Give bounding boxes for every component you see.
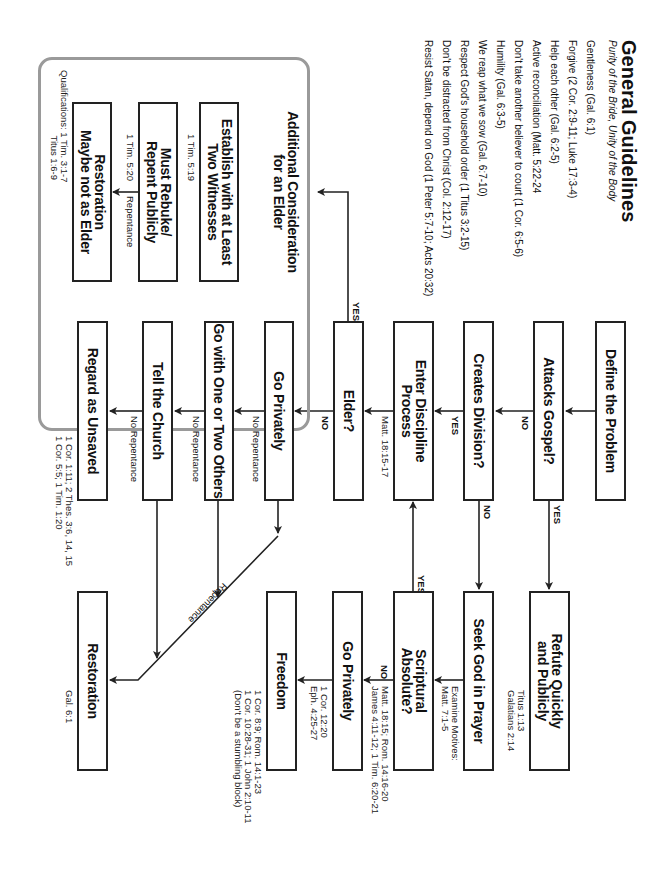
refute-line2: and Publicly <box>536 591 550 771</box>
restoration-label: Restoration <box>86 591 100 771</box>
seek-god-label: Seek God in Prayer <box>472 591 486 771</box>
restoration-maybe-line2: Maybe not as Elder <box>79 102 93 282</box>
establish-line2: Two Witnesses <box>206 102 220 282</box>
refute-ref: Titus 1:13 Galatians 2:14 <box>506 690 526 751</box>
freedom-ref: 1 Cor. 8:9; Rom. 14:1-23 1 Cor. 10:28-31… <box>233 690 263 823</box>
attacks-gospel-label: Attacks Gospel? <box>542 321 556 501</box>
rebuke-ref: 1 Tim. 5:20 <box>125 134 135 181</box>
guideline-item: Don't take another believer to court (1 … <box>512 40 524 296</box>
guidelines-title: General Guidelines <box>618 40 640 296</box>
qualifications-ref: Qualifications: 1 Tim. 3:1-7 Titus 1:6-9 <box>49 70 69 180</box>
elder-question-label: Elder? <box>342 321 356 501</box>
scriptural-absolute-label: Scriptural Absolute? <box>400 591 428 771</box>
freedom-label: Freedom <box>275 591 289 771</box>
guideline-item: Don't be distracted from Christ (Col. 2:… <box>440 40 452 296</box>
establish-witnesses-label: Establish with at Least Two Witnesses <box>206 102 234 282</box>
scriptural-ref-line2: James 4:11-12; 1 Tim. 6:20-21 <box>370 686 380 814</box>
go-privately-2-ref-line1: 1 Cor. 12:20 <box>319 686 329 740</box>
guideline-item: Gentleness (Gal. 6:1) <box>584 40 596 296</box>
establish-line1: Establish with at Least <box>220 102 234 282</box>
must-rebuke-label: Must Rebuke/ Repent Publicly <box>145 102 173 282</box>
guideline-item: Help each other (Gal. 6:2-5) <box>548 40 560 296</box>
go-privately-2-ref-line2: Eph. 4:25-27 <box>309 686 319 740</box>
refute-label: Refute Quickly and Publicly <box>536 591 564 771</box>
guideline-item: We reap what we sow (Gal. 6:7-10) <box>476 40 488 296</box>
enter-ref: Matt. 18:15-17 <box>380 416 390 477</box>
restoration-ref: Gal. 6:1 <box>64 690 74 723</box>
guideline-item: Respect God's household order (1 Titus 3… <box>458 40 470 296</box>
regard-ref-line1: 1 Cor. 1:11; 2 Thes. 3:6, 14, 15 <box>64 436 74 566</box>
enter-discipline-label: Enter Discipline Process <box>400 321 428 501</box>
qualifications-line2: Titus 1:6-9 <box>49 70 59 180</box>
restoration-maybe-label: Restoration Maybe not as Elder <box>79 102 107 282</box>
restoration-maybe-line1: Restoration <box>93 102 107 282</box>
seek-ref-line2: Matt. 7:1-5 <box>440 686 450 761</box>
enter-line1: Enter Discipline <box>414 321 428 501</box>
creates-division-label: Creates Division? <box>472 321 486 501</box>
qualifications-line1: Qualifications: 1 Tim. 3:1-7 <box>59 70 69 180</box>
scriptural-ref-line1: Matt. 18:15; Rom. 14:16-20 <box>380 686 390 814</box>
go-with-others-label: Go with One or Two Others <box>212 321 226 501</box>
guideline-item: Active reconciliation (Matt. 5:22-24 <box>530 40 542 296</box>
regard-ref: 1 Cor. 1:11; 2 Thes. 3:6, 14, 15 1 Cor. … <box>54 436 74 566</box>
scriptural-ref: Matt. 18:15; Rom. 14:16-20 James 4:11-12… <box>370 686 390 814</box>
elder-title-line2: for an Elder <box>272 102 286 282</box>
division-yes-label: YES <box>450 416 460 435</box>
define-problem-label: Define the Problem <box>604 321 618 501</box>
scriptural-no-label: NO <box>379 665 389 679</box>
no-repentance-label-1: No Repentance <box>251 416 261 482</box>
elder-consideration-title: Additional Consideration for an Elder <box>272 102 300 282</box>
repentance-diagonal-label: Repentance <box>186 581 229 625</box>
general-guidelines: General Guidelines Purity of the Bride, … <box>422 40 640 296</box>
guideline-item: Humility (Gal. 6:3-5) <box>494 40 506 296</box>
elder-title-line1: Additional Consideration <box>286 102 300 282</box>
no-repentance-label-2: No Repentance <box>191 416 201 482</box>
regard-ref-line2: 1 Cor. 5:5; 1 Tim. 1:20 <box>54 436 64 566</box>
refute-line1: Refute Quickly <box>550 591 564 771</box>
scriptural-line1: Scriptural <box>414 591 428 771</box>
no-repentance-label-3: No Repentance <box>129 416 139 482</box>
division-no-label: NO <box>482 505 492 519</box>
guideline-item: Forgive (2 Cor. 2:9-11; Luke 17:3-4) <box>566 40 578 296</box>
guideline-item: Resist Satan, depend on God (1 Peter 5:7… <box>422 40 434 296</box>
flowchart-canvas: General Guidelines Purity of the Bride, … <box>0 0 660 872</box>
scriptural-line2: Absolute? <box>400 591 414 771</box>
tell-church-label: Tell the Church <box>151 321 165 501</box>
go-privately-2-ref: 1 Cor. 12:20 Eph. 4:25-27 <box>309 686 329 740</box>
refute-ref-line1: Titus 1:13 <box>516 690 526 751</box>
attacks-yes-label: YES <box>552 505 562 524</box>
freedom-ref-line1: 1 Cor. 8:9; Rom. 14:1-23 <box>253 690 263 823</box>
seek-ref: Examine Motives: Matt. 7:1-5 <box>440 686 460 761</box>
guidelines-subtitle: Purity of the Bride, Unity of the Body <box>606 40 618 296</box>
go-privately-2-label: Go Privately <box>341 591 355 771</box>
establish-ref: 1 Tim. 5:19 <box>186 134 196 181</box>
regard-unsaved-label: Regard as Unsaved <box>86 321 100 501</box>
attacks-no-label: NO <box>520 416 530 430</box>
refute-ref-line2: Galatians 2:14 <box>506 690 516 751</box>
rebuke-repentance-label: Repentance <box>125 196 135 247</box>
seek-ref-line1: Examine Motives: <box>450 686 460 761</box>
elder-yes-label: YES <box>351 302 361 321</box>
enter-line2: Process <box>400 321 414 501</box>
go-privately-label: Go Privately <box>272 321 286 501</box>
freedom-ref-line2: 1 Cor. 10:28-31; 1 John 2:10-11 <box>243 690 253 823</box>
elder-no-label: NO <box>320 416 330 430</box>
freedom-ref-line3: (Don't be a stumbling block) <box>233 690 243 823</box>
rebuke-line1: Must Rebuke/ <box>159 102 173 282</box>
rebuke-line2: Repent Publicly <box>145 102 159 282</box>
